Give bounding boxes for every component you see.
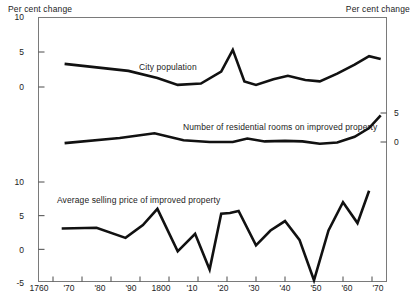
tick-marks: [39, 52, 387, 282]
plot-frame: [39, 18, 387, 282]
y-tick-left-bot-0: 0: [2, 245, 24, 255]
series-line-city-population: [65, 50, 381, 85]
y-tick-left-top-5: 5: [2, 47, 24, 57]
y-tick-left-bot-10: 10: [2, 177, 24, 187]
series-label-city-population: City population: [139, 62, 197, 72]
y-tick-right-mid-5: 5: [394, 108, 416, 118]
series-label-selling-price: Average selling price of improved proper…: [57, 195, 220, 205]
y-tick-left-top-10: 10: [2, 12, 24, 22]
y-tick-right-mid-0: 0: [394, 137, 416, 147]
y-tick-left-top-0: 0: [2, 82, 24, 92]
x-tick-1870: '70: [358, 283, 398, 293]
series-label-residential-rooms: Number of residential rooms on improved …: [183, 122, 377, 132]
y-tick-left-bot-5: 5: [2, 211, 24, 221]
plot-canvas: [0, 0, 416, 296]
chart-figure: Per cent change Per cent change 10 5 0 5…: [0, 0, 416, 296]
right-axis-title: Per cent change: [346, 4, 410, 14]
